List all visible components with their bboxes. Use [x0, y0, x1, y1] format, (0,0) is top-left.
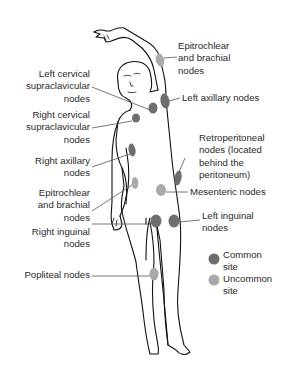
leader-left-cervical-supraclavicular — [92, 87, 150, 110]
node-epitrochlear-brachial-right — [132, 177, 139, 189]
label-mesenteric: Mesenteric nodes — [190, 186, 266, 198]
label-popliteal: Popliteal nodes — [0, 269, 90, 281]
leader-left-inguinal — [179, 220, 200, 222]
label-right-cervical-supraclavicular: Right cervical supraclavicular nodes — [0, 109, 90, 146]
leader-right-axillary — [92, 154, 130, 167]
leader-epitrochlear-brachial-left — [164, 57, 177, 58]
node-mesenteric — [156, 184, 166, 196]
node-right-cervical-supraclavicular — [132, 114, 140, 123]
label-retroperitoneal: Retroperitoneal nodes (located behind th… — [199, 132, 265, 182]
label-epitrochlear-brachial-left: Epitrochlear and brachial nodes — [178, 40, 230, 77]
label-epitrochlear-brachial-right: Epitrochlear and brachial nodes — [0, 187, 90, 224]
node-right-axillary — [127, 143, 136, 157]
leader-right-cervical-supraclavicular — [92, 121, 132, 128]
head-outline — [118, 61, 159, 92]
label-left-axillary: Left axillary nodes — [182, 92, 259, 104]
legend-common-site-label: Common site — [223, 249, 262, 274]
label-left-inguinal: Left inguinal nodes — [202, 210, 254, 235]
node-left-inguinal — [169, 215, 180, 228]
label-right-inguinal: Right inguinal nodes — [0, 226, 90, 251]
hand-outline — [94, 32, 114, 42]
left-leg-outline — [156, 218, 168, 345]
node-epitrochlear-brachial-left — [154, 53, 165, 68]
uncommon-site-dot — [209, 275, 220, 286]
node-popliteal — [150, 268, 159, 281]
label-right-axillary: Right axillary nodes — [0, 155, 90, 180]
node-right-inguinal — [151, 215, 162, 228]
common-site-dot — [209, 254, 220, 265]
legend-uncommon-site-label: Uncommon site — [223, 273, 272, 298]
leader-retroperitoneal — [179, 158, 185, 172]
right-leg-outline — [122, 212, 159, 354]
node-left-cervical-supraclavicular — [149, 103, 158, 114]
label-left-cervical-supraclavicular: Left cervical supraclavicular nodes — [0, 68, 90, 105]
leader-left-axillary — [169, 98, 180, 101]
